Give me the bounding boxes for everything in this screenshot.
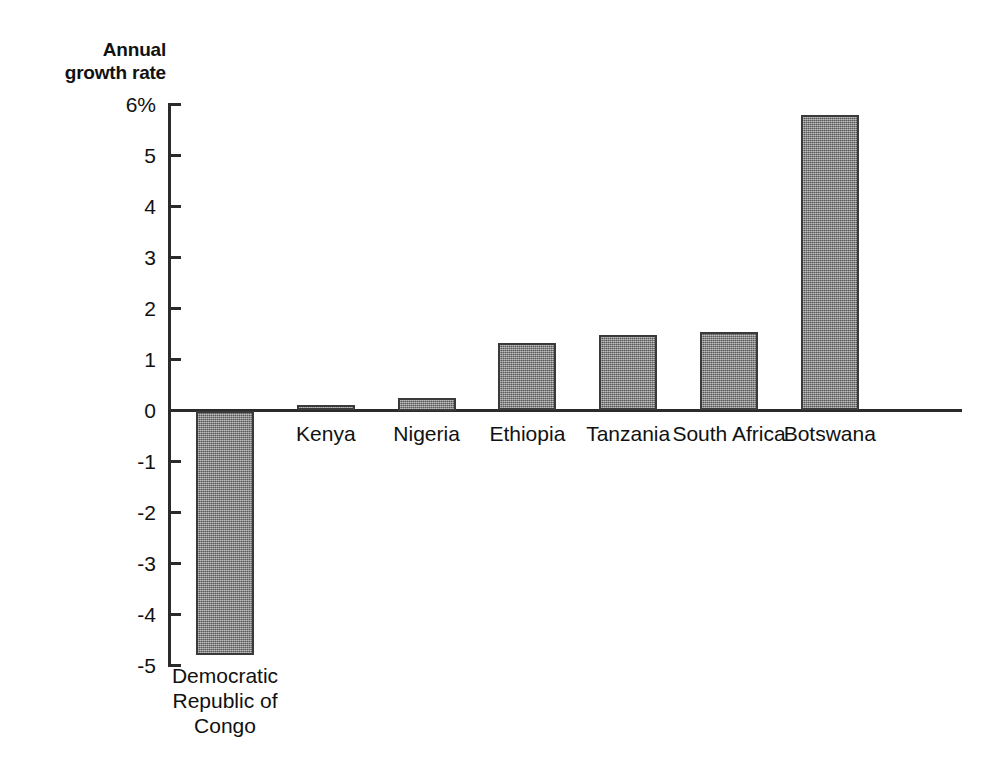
y-axis-title: Annual growth rate	[48, 38, 166, 84]
bar[interactable]	[398, 398, 456, 411]
category-label-line: Botswana	[740, 421, 920, 446]
y-axis-tick-label: 3	[44, 247, 156, 268]
y-axis-tick	[168, 460, 181, 463]
y-axis-title-line-1: Annual	[48, 38, 166, 61]
y-axis-tick	[168, 613, 181, 616]
category-label[interactable]: DemocraticRepublic ofCongo	[130, 663, 320, 738]
bar[interactable]	[700, 332, 758, 410]
y-axis-tick-label: -1	[44, 451, 156, 472]
category-label[interactable]: Botswana	[740, 421, 920, 446]
y-axis-tick-label: 2	[44, 298, 156, 319]
y-axis-tick	[168, 562, 181, 565]
y-axis-tick	[168, 205, 181, 208]
y-axis-tick	[168, 103, 181, 106]
bar[interactable]	[498, 343, 556, 410]
y-axis-tick-label: -4	[44, 604, 156, 625]
y-axis-tick	[168, 409, 181, 412]
y-axis-tick-label: -3	[44, 553, 156, 574]
y-axis-tick-label: 0	[44, 400, 156, 421]
caption-sliver	[232, 744, 792, 758]
y-axis-tick	[168, 154, 181, 157]
y-axis-tick-label: 5	[44, 145, 156, 166]
y-axis-tick	[168, 256, 181, 259]
bar[interactable]	[196, 411, 254, 656]
y-axis-tick-label: -2	[44, 502, 156, 523]
y-axis-title-line-2: growth rate	[48, 61, 166, 84]
y-axis-tick	[168, 511, 181, 514]
category-label-line: Democratic	[130, 663, 320, 688]
bar-chart-figure: Annual growth rate 6%543210-1-2-3-4-5 De…	[0, 0, 991, 758]
y-axis-tick	[168, 358, 181, 361]
y-axis-tick-label: 4	[44, 196, 156, 217]
bar[interactable]	[297, 405, 355, 410]
category-label-line: Republic of	[130, 688, 320, 713]
category-label-line: Congo	[130, 713, 320, 738]
y-axis-tick-label: 1	[44, 349, 156, 370]
bar[interactable]	[599, 335, 657, 410]
bar[interactable]	[801, 115, 859, 411]
y-axis-spine	[168, 103, 171, 664]
y-axis-tick-label: 6%	[44, 94, 156, 115]
y-axis-tick	[168, 307, 181, 310]
